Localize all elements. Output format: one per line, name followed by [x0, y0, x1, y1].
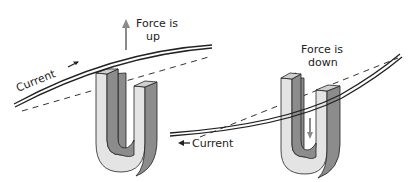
magnetic-force-diagram: Current Force is up Current [0, 0, 415, 182]
force-up-arrow-icon [122, 19, 130, 50]
left-force-label-line2: up [146, 30, 160, 43]
left-force-label-line1: Force is [136, 17, 178, 30]
force-down-arrow-icon [307, 118, 313, 139]
right-force-label-line2: down [308, 56, 338, 69]
left-panel: Current Force is up [14, 17, 212, 176]
left-horseshoe-magnet-icon [96, 69, 157, 176]
right-force-label-line1: Force is [301, 43, 343, 56]
right-panel: Current Force is down [170, 43, 402, 178]
left-current-label: Current [14, 67, 58, 95]
right-current-label: Current [192, 137, 234, 150]
